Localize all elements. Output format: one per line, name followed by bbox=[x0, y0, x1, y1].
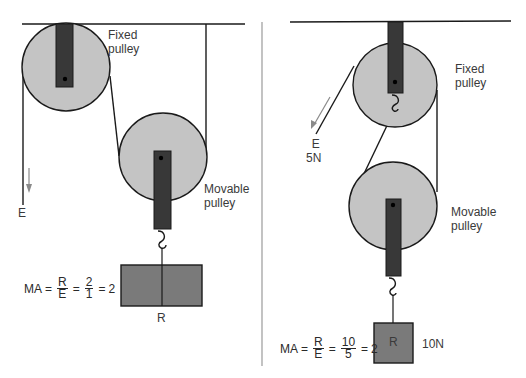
right-movable-label-line1: Movable bbox=[451, 205, 496, 219]
left-fixed-label-line2: pulley bbox=[108, 42, 139, 56]
formula-result: 2 bbox=[108, 282, 115, 296]
right-movable-pulley-bracket bbox=[386, 199, 401, 276]
left-fixed-pulley-label: Fixed pulley bbox=[108, 28, 139, 56]
formula-equals: = bbox=[361, 342, 368, 356]
right-effort-rope bbox=[316, 66, 354, 134]
formula-fraction-values: 10 5 bbox=[341, 337, 356, 360]
left-movable-pulley-bracket bbox=[154, 151, 171, 229]
right-effort-letter: E bbox=[306, 137, 321, 151]
left-load-label: R bbox=[157, 311, 166, 325]
left-ma-formula: MA = R E = 2 1 = 2 bbox=[24, 277, 115, 300]
right-fixed-pulley-label: Fixed pulley bbox=[455, 62, 486, 90]
right-load-value: 10N bbox=[422, 337, 444, 351]
formula-equals: = bbox=[45, 282, 52, 296]
right-movable-label-line2: pulley bbox=[451, 219, 496, 233]
right-load-label: R bbox=[389, 335, 398, 349]
right-effort-arrow bbox=[315, 97, 330, 123]
formula-equals: = bbox=[301, 342, 308, 356]
right-movable-pulley-label: Movable pulley bbox=[451, 205, 496, 233]
fraction-denominator: E bbox=[57, 289, 67, 300]
formula-fraction-r-over-e: R E bbox=[57, 277, 68, 300]
right-effort-label: E 5N bbox=[306, 137, 321, 165]
right-movable-pulley-axle bbox=[391, 203, 395, 207]
diagram-canvas bbox=[0, 0, 526, 378]
right-ma-formula: MA = R E = 10 5 = 2 bbox=[280, 337, 378, 360]
right-load-hook-icon bbox=[389, 278, 396, 295]
pulley-diagram: Fixed pulley Movable pulley E R MA = R E… bbox=[0, 0, 526, 378]
formula-lhs: MA bbox=[280, 342, 298, 356]
formula-fraction-values: 2 1 bbox=[85, 277, 94, 300]
right-fixed-label-line2: pulley bbox=[455, 76, 486, 90]
formula-fraction-r-over-e: R E bbox=[313, 337, 324, 360]
right-fixed-pulley-axle bbox=[393, 80, 397, 84]
fraction-denominator: 1 bbox=[85, 289, 94, 300]
left-effort-arrowhead-icon bbox=[26, 184, 32, 193]
left-movable-pulley-label: Movable pulley bbox=[204, 182, 249, 210]
left-movable-label-line1: Movable bbox=[204, 182, 249, 196]
left-movable-label-line2: pulley bbox=[204, 196, 249, 210]
left-connecting-rope bbox=[110, 76, 119, 156]
formula-equals: = bbox=[329, 342, 336, 356]
fraction-denominator: E bbox=[313, 349, 323, 360]
formula-lhs: MA bbox=[24, 282, 42, 296]
fraction-denominator: 5 bbox=[344, 349, 353, 360]
left-movable-pulley-axle bbox=[159, 156, 163, 160]
left-fixed-pulley-axle bbox=[63, 77, 67, 81]
left-fixed-label-line1: Fixed bbox=[108, 28, 139, 42]
right-fixed-label-line1: Fixed bbox=[455, 62, 486, 76]
left-effort-label: E bbox=[18, 206, 26, 220]
formula-equals: = bbox=[98, 282, 105, 296]
left-pulley-system bbox=[22, 23, 245, 306]
formula-result: 2 bbox=[371, 342, 378, 356]
left-hook-icon bbox=[158, 231, 166, 248]
formula-equals: = bbox=[73, 282, 80, 296]
right-effort-value: 5N bbox=[306, 151, 321, 165]
